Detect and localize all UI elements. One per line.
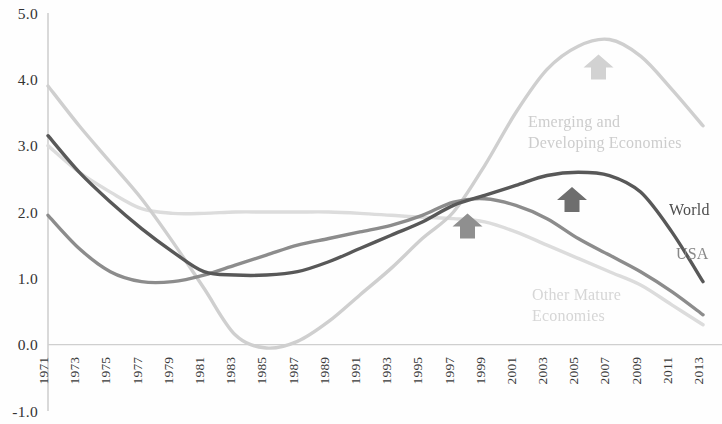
x-axis-tick-label: 1997 <box>442 357 457 385</box>
x-axis-tick-label: 1983 <box>223 357 238 385</box>
x-axis-tick-label: 1991 <box>348 357 363 385</box>
x-axis-tick-label: 1973 <box>67 357 82 385</box>
series-inline-labels-group: Emerging andDeveloping EconomiesWorldUSA… <box>528 113 710 324</box>
label-other-mature: Other MatureEconomies <box>532 286 621 324</box>
x-axis-tick-label: 2005 <box>566 357 581 385</box>
y-axis-tick-label: 2.0 <box>18 204 38 221</box>
label-world: World <box>669 201 710 218</box>
series-label-line: Economies <box>532 307 605 324</box>
up-arrow-icon <box>557 187 587 212</box>
series-label-line: World <box>669 201 710 218</box>
x-axis-tick-label: 2007 <box>597 357 612 385</box>
x-axis-tick-label: 1989 <box>317 357 332 385</box>
series-label-line: Developing Economies <box>528 134 682 152</box>
x-axis-tick-label: 1977 <box>130 357 145 385</box>
series-label-line: USA <box>676 245 709 262</box>
label-emerging: Emerging andDeveloping Economies <box>528 113 682 152</box>
x-axis-tick-label: 1995 <box>410 357 425 385</box>
y-axis-tick-label: 3.0 <box>18 137 38 154</box>
chart-canvas: 5.04.03.02.01.00.0-1.0 19711973197519771… <box>0 0 722 424</box>
y-axis-tick-label: 5.0 <box>18 5 38 22</box>
up-arrow-icon <box>584 54 614 79</box>
label-usa: USA <box>676 245 709 262</box>
series-label-line: Emerging and <box>528 113 620 131</box>
y-axis-tick-label: 0.0 <box>18 336 38 353</box>
line-chart-figure: 5.04.03.02.01.00.0-1.0 19711973197519771… <box>0 0 722 424</box>
x-axis-tick-label: 2013 <box>691 357 706 385</box>
x-axis-tick-label: 1985 <box>254 357 269 385</box>
x-axis-tick-label: 2001 <box>504 357 519 385</box>
y-axis-tick-label: -1.0 <box>12 403 38 420</box>
x-axis-tick-label: 1993 <box>379 357 394 385</box>
x-axis-tick-label: 1999 <box>473 357 488 385</box>
x-axis-tick-label: 1981 <box>192 357 207 385</box>
x-axis-tick-label: 2011 <box>660 357 675 384</box>
x-axis-tick-label: 2003 <box>535 357 550 385</box>
series-label-line: Other Mature <box>532 286 621 303</box>
y-axis-tick-label: 1.0 <box>18 270 38 287</box>
y-axis-tick-label: 4.0 <box>18 71 38 88</box>
y-axis-tick-labels: 5.04.03.02.01.00.0-1.0 <box>12 5 38 420</box>
x-axis-tick-label: 1975 <box>98 357 113 385</box>
x-axis-tick-label: 2009 <box>629 357 644 385</box>
x-axis-tick-label: 1971 <box>36 357 51 385</box>
x-axis-tick-label: 1987 <box>286 357 301 385</box>
x-axis-tick-labels: 1971197319751977197919811983198519871989… <box>36 357 706 385</box>
x-axis-tick-label: 1979 <box>161 357 176 385</box>
